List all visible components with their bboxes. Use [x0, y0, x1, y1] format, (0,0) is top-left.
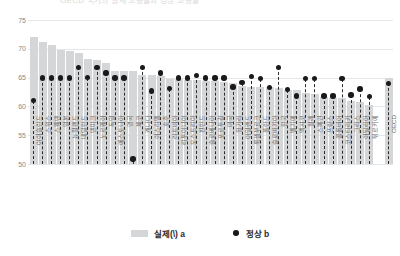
chart-container: OECD 국가의 실제 고용률과 정상 고용률 505560657075 아이슬… [0, 0, 400, 256]
x-axis-label: 핀란드 [199, 115, 205, 167]
stem-line [33, 101, 34, 164]
y-axis-tick-label: 50 [0, 161, 26, 168]
x-axis-label: OECD [391, 115, 397, 167]
x-axis-label: 슬로바키아 [272, 115, 278, 167]
x-axis-label: 칠레 [308, 115, 314, 167]
x-axis-label: 포르투갈 [218, 115, 224, 167]
dot-normal[interactable] [386, 81, 391, 86]
x-axis-label: 이스라엘 [154, 115, 160, 167]
x-axis-label: 덴마크 [90, 115, 96, 167]
dot-normal[interactable] [348, 92, 353, 97]
x-axis-label: 코스타리카 [345, 115, 351, 167]
dot-normal[interactable] [221, 75, 226, 80]
legend-label-actual: 실제(\) a [154, 227, 185, 239]
chart-title-strip: OECD 국가의 실제 고용률과 정상 고용률 [0, 0, 400, 9]
legend-item-actual: 실제(\) a [131, 227, 185, 239]
x-axis-label: 벨기에 [290, 115, 296, 167]
stem-line [160, 73, 161, 164]
x-axis-label: 호주 [163, 115, 169, 167]
dot-normal[interactable] [339, 76, 344, 81]
chart-legend: 실제(\) a 정상 b [0, 221, 400, 245]
x-axis-label: 미국 [227, 115, 233, 167]
x-axis-label: 오스트리아 [190, 115, 196, 167]
dot-normal[interactable] [258, 76, 263, 81]
legend-label-normal: 정상 b [246, 227, 270, 239]
y-axis-tick-label: 55 [0, 132, 26, 139]
x-axis-label: 콜롬비아 [336, 115, 342, 167]
x-axis-label: 영국 [127, 115, 133, 167]
x-axis-labels: 아이슬란드스위스스웨덴일본뉴질랜드네덜란드덴마크노르웨이독일에스토니아영국체코캐… [28, 165, 393, 217]
bar-swatch-icon [131, 230, 148, 237]
x-axis-label: 아이슬란드 [36, 115, 42, 167]
dot-normal[interactable] [158, 70, 163, 75]
y-axis-tick-label: 60 [0, 103, 26, 110]
x-axis-label: 프랑스 [327, 115, 333, 167]
x-axis-label: 네덜란드 [81, 115, 87, 167]
dot-normal[interactable] [321, 93, 326, 98]
dot-normal[interactable] [239, 80, 244, 85]
dot-normal[interactable] [40, 75, 45, 80]
x-axis-label: 노르웨이 [100, 115, 106, 167]
stem-line [278, 67, 279, 164]
dot-normal[interactable] [367, 94, 372, 99]
dot-normal[interactable] [330, 93, 335, 98]
stem-line [42, 78, 43, 164]
page-title: OECD 국가의 실제 고용률과 정상 고용률 [60, 0, 199, 5]
x-axis-label: 스위스 [45, 115, 51, 167]
x-axis-label: 그리스 [354, 115, 360, 167]
x-axis-label: 슬로베니아 [209, 115, 215, 167]
dot-normal[interactable] [121, 75, 126, 80]
stem-line [269, 87, 270, 164]
stem-line [388, 83, 389, 164]
dot-normal[interactable] [94, 65, 99, 70]
x-axis-label: 독일 [109, 115, 115, 167]
x-axis-label: 아일랜드 [245, 115, 251, 167]
dot-normal[interactable] [49, 75, 54, 80]
x-axis-label: 튀르키예 [372, 115, 378, 167]
dot-normal[interactable] [140, 65, 145, 70]
stem-line [324, 96, 325, 164]
dot-normal[interactable] [58, 75, 63, 80]
x-axis-label: 에스토니아 [118, 115, 124, 167]
x-axis-label: 뉴질랜드 [72, 115, 78, 167]
y-axis-tick-label: 70 [0, 45, 26, 52]
x-axis-label: 폴란드 [263, 115, 269, 167]
dot-normal[interactable] [312, 76, 317, 81]
x-axis-label: 일본 [63, 115, 69, 167]
stem-line [51, 78, 52, 164]
x-axis-label: 라트비아 [172, 115, 178, 167]
x-axis-label: 한국 [281, 115, 287, 167]
dot-normal[interactable] [294, 93, 299, 98]
dot-normal[interactable] [112, 75, 117, 80]
x-axis-label: 스페인 [317, 115, 323, 167]
dot-normal[interactable] [194, 73, 199, 78]
dot-normal[interactable] [103, 70, 108, 75]
dot-normal[interactable] [276, 65, 281, 70]
dot-normal[interactable] [249, 74, 254, 79]
stem-line [206, 78, 207, 164]
legend-item-normal: 정상 b [233, 227, 269, 239]
x-axis-label: 헝가리 [236, 115, 242, 167]
dot-normal[interactable] [176, 75, 181, 80]
dot-normal[interactable] [203, 75, 208, 80]
stem-line [97, 67, 98, 164]
y-axis-tick-label: 75 [0, 17, 26, 24]
x-axis-label: 이탈리아 [363, 115, 369, 167]
dot-normal[interactable] [267, 85, 272, 90]
y-axis-tick-label: 65 [0, 74, 26, 81]
dot-normal[interactable] [303, 76, 308, 81]
dot-normal[interactable] [212, 75, 217, 80]
dot-normal[interactable] [149, 88, 154, 93]
x-axis-label: 캐나다 [145, 115, 151, 167]
x-axis-label: 스웨덴 [54, 115, 60, 167]
dot-normal[interactable] [230, 84, 235, 89]
dot-swatch-icon [233, 230, 239, 236]
dot-normal[interactable] [357, 86, 362, 91]
x-axis-label: 멕시코 [299, 115, 305, 167]
x-axis-label: 룩셈부르크 [254, 115, 260, 167]
x-axis-label: 리투아니아 [181, 115, 187, 167]
x-axis-label: 체코 [136, 115, 142, 167]
